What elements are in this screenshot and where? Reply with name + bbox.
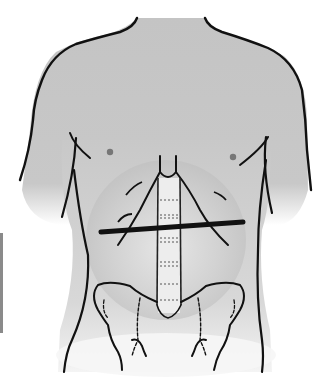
left-edge-bar xyxy=(0,233,3,333)
lumbar-spine xyxy=(157,178,181,313)
left-nipple xyxy=(107,149,113,155)
torso-illustration: Transverse line across upper abdomen xyxy=(0,0,331,381)
torso-svg xyxy=(0,0,331,381)
right-nipple xyxy=(230,154,236,160)
